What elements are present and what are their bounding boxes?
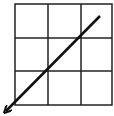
diagonal-arrow [6,16,100,111]
grid-diagram [0,0,114,116]
